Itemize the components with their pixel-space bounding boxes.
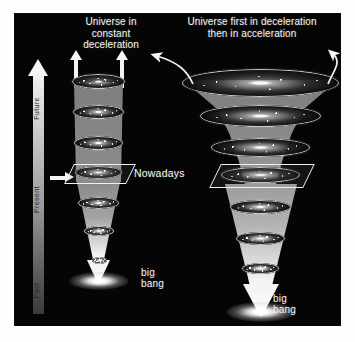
- time-axis: Future Present Past: [28, 59, 50, 314]
- galaxy-slice: [73, 105, 124, 119]
- galaxy-slice: [200, 105, 321, 127]
- galaxy-slice: [242, 263, 279, 274]
- galaxy-slice: [72, 74, 125, 89]
- arrow-deceleration-right-icon: [120, 50, 124, 80]
- galaxy-slice: [84, 226, 114, 236]
- arrow-deceleration-left-icon: [74, 50, 78, 80]
- present-pointer-bar: [50, 176, 66, 180]
- galaxy-slice: [74, 136, 123, 150]
- big-bang-flash-left: [69, 272, 129, 290]
- galaxy-slice: [92, 257, 107, 264]
- cone-left-body-lower: [76, 182, 121, 260]
- big-bang-label-left: big bang: [141, 267, 164, 289]
- nowadays-slice-frame: [209, 164, 315, 188]
- axis-label-future: Future: [33, 87, 40, 131]
- galaxy-slice: [236, 232, 285, 245]
- galaxy-slice: [230, 200, 291, 214]
- diagram-canvas: Universe in constant deceleration Univer…: [14, 13, 341, 326]
- axis-label-past: Past: [33, 269, 40, 313]
- left-panel-title: Universe in constant deceleration: [51, 16, 171, 51]
- big-bang-label-right: big bang: [273, 293, 296, 315]
- nowadays-label: Nowadays: [134, 167, 185, 179]
- galaxy-slice: [182, 69, 339, 97]
- axis-label-present: Present: [33, 178, 40, 222]
- nowadays-slice-frame: [64, 164, 136, 184]
- galaxy-slice: [78, 197, 119, 209]
- galaxy-slice: [211, 138, 310, 157]
- figure-page: Universe in constant deceleration Univer…: [0, 0, 355, 342]
- right-panel-title: Universe first in deceleration then in a…: [159, 16, 341, 39]
